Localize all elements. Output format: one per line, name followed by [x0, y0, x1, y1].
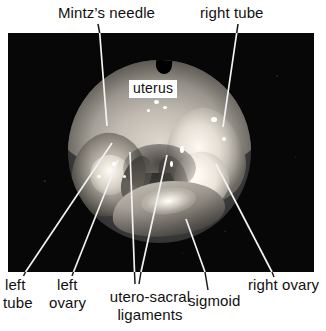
leader-utero-sacral-ligament-left-paper: [135, 272, 136, 284]
annotated-laparoscopy-figure: uterus Mintz’s needle right tube left tu…: [0, 0, 326, 331]
leader-mintz-needle-paper: [98, 24, 100, 33]
label-left-ovary-line2: ovary: [49, 295, 86, 311]
leader-utero-sacral-ligament-right-paper: [139, 272, 141, 284]
photograph-plate: [8, 33, 314, 272]
leader-sigmoid-paper: [205, 272, 208, 290]
label-sigmoid: sigmoid: [188, 293, 240, 309]
leader-right-tube-paper: [237, 24, 238, 33]
specular-glint: [180, 146, 184, 153]
label-left-ovary-line1: left: [57, 277, 77, 293]
label-left-tube-line2: tube: [3, 295, 33, 311]
label-right-ovary: right ovary: [248, 277, 319, 293]
label-left-tube-line1: left: [5, 277, 25, 293]
label-right-tube: right tube: [200, 5, 264, 21]
label-mintz-needle: Mintz’s needle: [58, 5, 155, 21]
specular-glint: [211, 117, 217, 122]
specular-glint: [163, 106, 167, 109]
label-uterus: uterus: [129, 80, 177, 98]
label-utero-sacral-ligaments-line2: ligaments: [100, 307, 200, 323]
label-utero-sacral-ligaments-line1: utero-sacral: [100, 289, 200, 305]
specular-glint: [222, 137, 226, 141]
